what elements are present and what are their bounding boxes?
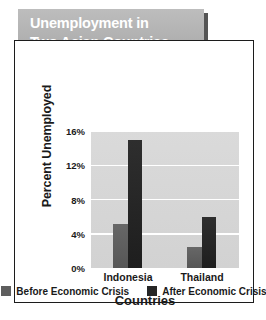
- y-axis-tick-labels: 0%4%8%12%16%: [55, 131, 88, 268]
- y-axis-tick: 12%: [52, 160, 85, 171]
- plot-area: [91, 131, 239, 268]
- legend-item[interactable]: After Economic Crisis: [147, 286, 266, 297]
- y-axis-tick: 16%: [52, 126, 85, 137]
- chart-card: Percent Unemployed Countries 0%4%8%12%16…: [14, 40, 254, 303]
- y-axis-tick: 4%: [52, 228, 85, 239]
- legend-label: Before Economic Crisis: [16, 286, 129, 297]
- bar-series-container: [91, 131, 239, 268]
- y-axis-tick: 8%: [52, 194, 85, 205]
- legend-swatch-icon: [147, 286, 157, 296]
- bar: [187, 247, 201, 268]
- legend-swatch-icon: [1, 286, 11, 296]
- bar: [128, 140, 142, 268]
- legend-label: After Economic Crisis: [162, 286, 266, 297]
- bar: [202, 217, 216, 268]
- legend-item[interactable]: Before Economic Crisis: [1, 286, 129, 297]
- chart-legend: Before Economic CrisisAfter Economic Cri…: [15, 281, 253, 301]
- y-axis-title: Percent Unemployed: [40, 82, 54, 210]
- bar-group: [165, 131, 239, 268]
- chart-figure: Unemployment in Two Asian Countries Perc…: [0, 0, 266, 320]
- bar: [113, 224, 127, 268]
- bar-group: [91, 131, 165, 268]
